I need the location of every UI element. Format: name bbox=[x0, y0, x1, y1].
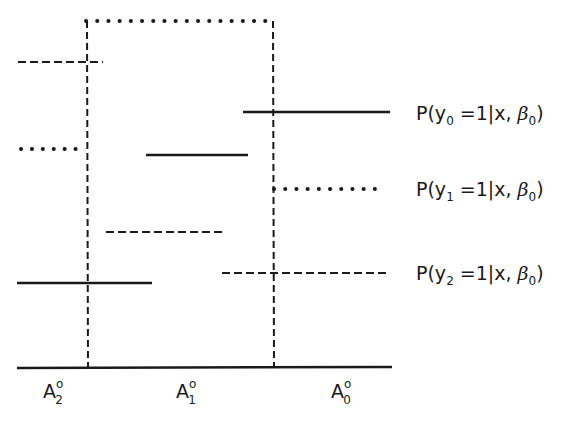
legend-label-y1: P(y1 =1|x, β0) bbox=[416, 178, 544, 204]
region-label-a1: Ao1 bbox=[176, 377, 196, 407]
baseline-axis bbox=[17, 367, 392, 368]
probability-region-diagram: P(y0 =1|x, β0) P(y1 =1|x, β0) P(y2 =1|x,… bbox=[0, 0, 577, 421]
region-label-a2: Ao2 bbox=[43, 377, 63, 407]
legend-label-y0: P(y0 =1|x, β0) bbox=[416, 102, 544, 128]
boundary-right bbox=[273, 21, 274, 367]
region-label-a0: Ao0 bbox=[331, 377, 351, 407]
boundary-left bbox=[87, 21, 88, 367]
legend-label-y2: P(y2 =1|x, β0) bbox=[416, 262, 544, 288]
